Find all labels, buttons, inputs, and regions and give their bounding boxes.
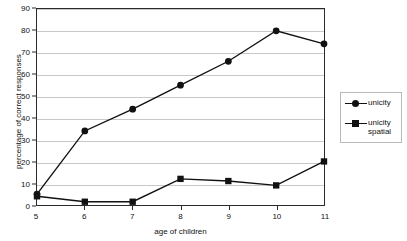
x-tick-label: 9 [226,212,230,221]
series-unicity-spatial [34,158,327,205]
line-chart: 0102030405060708090 percentage of correc… [0,0,407,241]
series-unicity [34,27,328,197]
x-tick-mark [229,206,230,210]
legend-entry: unicity spatial [345,118,398,136]
data-point [225,178,231,184]
data-point [129,199,135,205]
data-point [129,106,136,113]
series-line [37,31,324,194]
circle-marker-icon [345,99,367,109]
x-tick-label: 5 [34,212,38,221]
data-point [81,128,88,135]
data-point [321,40,328,47]
legend-marker [352,100,359,107]
data-point [34,193,40,199]
y-axis-title: percentage of correct responses [14,32,23,192]
legend-label: unicity spatial [367,118,398,136]
legend-marker [352,120,359,127]
x-tick-mark [181,206,182,210]
square-marker-icon [345,119,367,129]
x-tick-label: 7 [130,212,134,221]
x-tick-mark [84,206,85,210]
y-tick-label: 0 [26,202,30,211]
chart-legend: unicityunicity spatial [340,92,402,143]
legend-label: unicity [367,98,391,107]
x-tick-mark [132,206,133,210]
x-axis: 567891011 [36,206,325,224]
data-point [177,176,183,182]
x-axis-title: age of children [36,227,325,236]
data-point [273,182,279,188]
data-point [82,199,88,205]
legend-entry: unicity [345,98,398,109]
x-tick-mark [277,206,278,210]
data-point [273,27,280,34]
data-point [321,158,327,164]
x-tick-label: 8 [178,212,182,221]
data-point [225,58,232,65]
x-tick-label: 10 [272,212,281,221]
y-tick-label: 90 [21,4,30,13]
data-point [177,82,184,89]
series-layer [37,9,324,205]
plot-area [36,8,325,206]
x-tick-label: 6 [82,212,86,221]
x-tick-label: 11 [321,212,329,221]
